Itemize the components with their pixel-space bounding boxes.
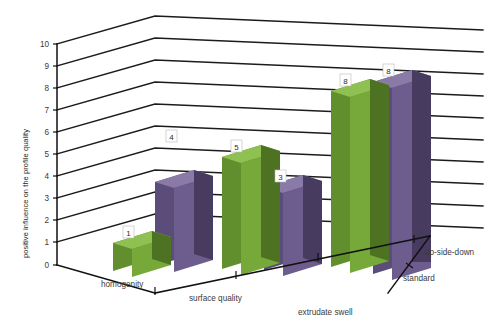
x-label-homogenity: homogenity [101,280,144,289]
bar-chart-3d: 10 9 8 7 6 5 4 3 2 1 0 positive influenc… [0,0,493,324]
y-tick-10: 10 [40,40,50,49]
bar-standard-homogenity [113,231,171,277]
y-axis [53,44,57,265]
value-up-side-down-surface-quality: 3 [278,173,283,182]
x-label-extrudate-swell: extrudate swell [298,308,353,317]
y-tick-8: 8 [44,84,49,93]
y-tick-7: 7 [44,106,49,115]
value-up-side-down-extrudate-swell: 8 [386,67,391,76]
y-axis-title: positive influence on the profile qualit… [21,129,30,258]
legend-standard: standard [403,274,435,283]
y-tick-3: 3 [44,194,49,203]
y-tick-1: 1 [44,238,49,247]
y-tick-0: 0 [44,261,49,270]
y-tick-4: 4 [44,172,49,181]
x-label-surface-quality: surface quality [189,294,243,303]
y-tick-5: 5 [44,150,49,159]
bar-standard-extrudate-swell [331,79,389,273]
value-up-side-down-homogenity: 4 [169,133,174,142]
x-axis-category-labels: homogenity surface quality extrudate swe… [101,280,353,317]
value-standard-surface-quality: 5 [234,143,239,152]
y-axis-tick-labels: 10 9 8 7 6 5 4 3 2 1 0 [40,40,50,270]
value-standard-homogenity: 1 [126,229,131,238]
chart-container: 10 9 8 7 6 5 4 3 2 1 0 positive influenc… [0,0,493,324]
y-tick-2: 2 [44,216,49,225]
value-standard-extrudate-swell: 8 [343,77,348,86]
legend-up-side-down: up-side-down [425,248,475,257]
y-tick-6: 6 [44,128,49,137]
bar-standard-surface-quality [222,145,280,275]
y-tick-9: 9 [44,62,49,71]
